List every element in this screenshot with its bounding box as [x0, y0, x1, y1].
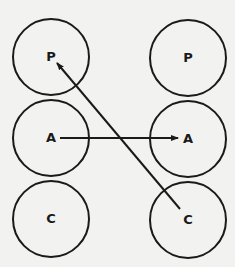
right-node-p-label: P	[178, 50, 198, 66]
right-node-c-label: C	[178, 212, 198, 228]
diagram-canvas	[0, 0, 235, 267]
left-node-a-label: A	[41, 130, 61, 146]
diagram: P A C P A C	[0, 0, 235, 267]
left-node-p-label: P	[41, 49, 61, 65]
left-node-c-label: C	[41, 211, 61, 227]
right-node-a-label: A	[178, 131, 198, 147]
